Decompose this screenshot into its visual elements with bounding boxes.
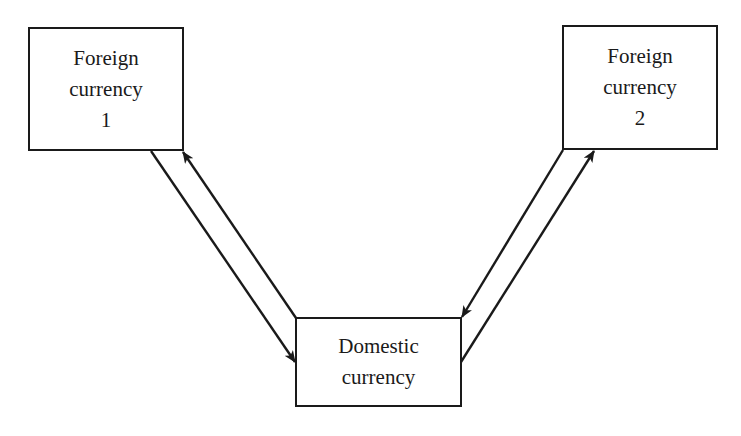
edge-domestic-to-foreign1 xyxy=(183,152,296,318)
node-label-line: Domestic xyxy=(338,331,418,362)
node-label-line: currency xyxy=(342,362,415,393)
currency-exchange-diagram: Foreign currency 1 Foreign currency 2 Do… xyxy=(0,0,741,436)
edge-foreign2-to-domestic xyxy=(462,150,563,317)
node-foreign-currency-1: Foreign currency 1 xyxy=(28,27,184,151)
node-domestic-currency: Domestic currency xyxy=(295,317,462,407)
edge-domestic-to-foreign2 xyxy=(461,151,594,362)
node-foreign-currency-2: Foreign currency 2 xyxy=(562,25,718,150)
node-label-line: 1 xyxy=(101,105,112,136)
node-label-line: currency xyxy=(69,74,142,105)
node-label-line: currency xyxy=(603,72,676,103)
node-label-line: Foreign xyxy=(73,43,138,74)
node-label-line: Foreign xyxy=(607,41,672,72)
node-label-line: 2 xyxy=(635,103,646,134)
edge-foreign1-to-domestic xyxy=(151,151,295,362)
